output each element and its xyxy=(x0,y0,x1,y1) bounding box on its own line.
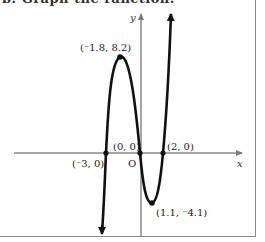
origin-label: O xyxy=(128,158,136,169)
label-x-intercept-2: (2, 0) xyxy=(167,141,194,152)
point-x-intercept-2 xyxy=(160,150,165,155)
point-local-max xyxy=(117,54,123,60)
label-x-intercept-neg3: (⁻3, 0) xyxy=(72,158,104,169)
y-axis-label: y xyxy=(129,12,136,23)
point-local-min xyxy=(149,200,155,206)
point-x-intercept-neg3 xyxy=(103,150,108,155)
label-local-max: (⁻1.8, 8.2) xyxy=(80,42,131,53)
label-local-min: (1.1, ⁻4.1) xyxy=(156,207,207,218)
x-axis-label: x xyxy=(237,158,243,169)
label-origin-point: (0, 0) xyxy=(113,141,140,152)
function-graph: y x O (⁻1.8, 8.2) (⁻3, 0) (0, 0) (2, 0) … xyxy=(0,0,265,242)
